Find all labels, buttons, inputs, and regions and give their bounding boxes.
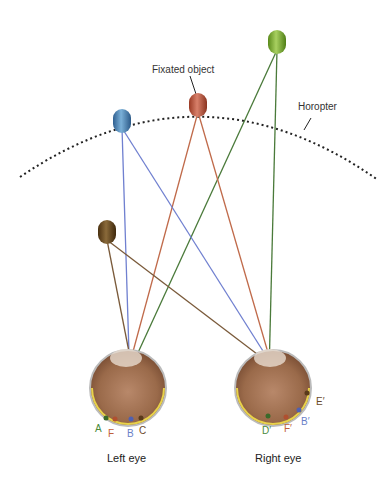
right-eye — [235, 349, 311, 426]
fixated-object — [189, 93, 207, 117]
horopter-label: Horopter — [298, 101, 337, 112]
point-e-prime: E′ — [316, 396, 325, 407]
brown-object — [98, 220, 116, 244]
right-eye-label: Right eye — [255, 452, 301, 464]
green-object — [268, 30, 286, 54]
fixated-object-callout — [190, 76, 196, 94]
fixated-object-label: Fixated object — [152, 64, 214, 75]
point-d-prime: D′ — [262, 425, 271, 436]
point-c: C — [139, 425, 146, 436]
blue-object — [113, 109, 131, 133]
left-eye — [90, 349, 166, 426]
point-b: B — [127, 428, 134, 439]
point-a: A — [95, 423, 102, 434]
horopter-callout — [304, 118, 311, 130]
point-b-prime: B′ — [301, 416, 310, 427]
left-eye-label: Left eye — [107, 452, 146, 464]
point-f-prime: F′ — [284, 423, 292, 434]
point-f: F — [108, 428, 114, 439]
horopter-arc — [20, 117, 378, 180]
